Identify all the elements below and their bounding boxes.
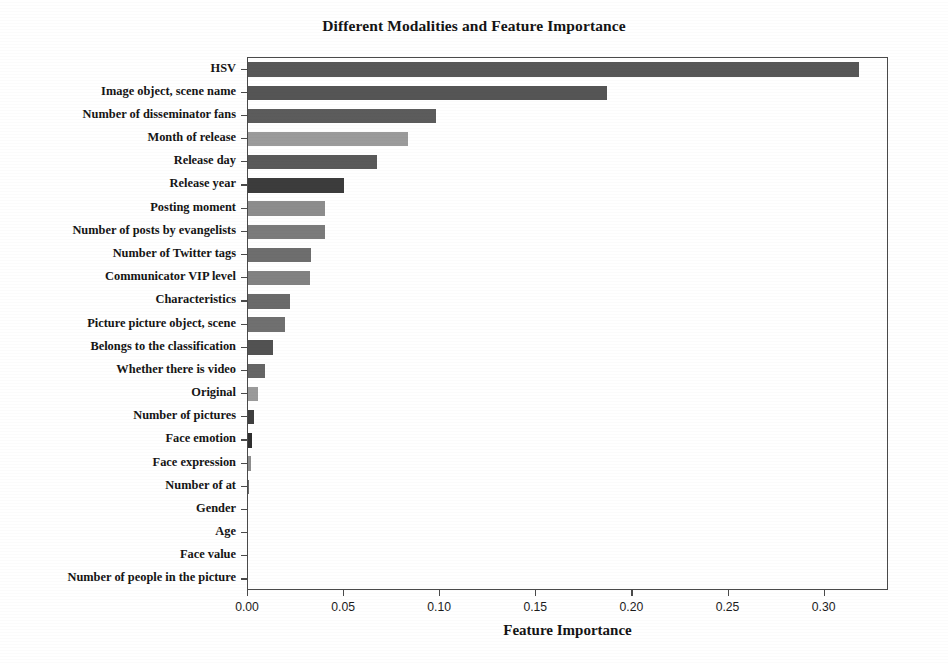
y-axis-tick-label: Release year <box>170 177 236 190</box>
chart-title: Different Modalities and Feature Importa… <box>0 17 948 35</box>
x-axis-tick <box>824 590 825 596</box>
y-axis-tick-label: Characteristics <box>155 293 236 306</box>
bar <box>248 178 344 192</box>
bar <box>248 225 325 239</box>
bar <box>248 109 436 123</box>
y-axis-tick <box>241 184 247 185</box>
x-axis-tick <box>631 590 632 596</box>
bar <box>248 456 251 470</box>
y-axis-tick <box>241 439 247 440</box>
y-axis-tick <box>241 115 247 116</box>
bar-row <box>248 526 889 540</box>
bar-row <box>248 225 889 239</box>
bar-row <box>248 155 889 169</box>
y-axis-tick-label: Posting moment <box>150 201 236 214</box>
y-axis-tick <box>241 532 247 533</box>
y-axis-tick <box>241 300 247 301</box>
plot-area <box>247 57 888 590</box>
bar <box>248 155 377 169</box>
y-axis-tick-label: Number of posts by evangelists <box>72 224 236 237</box>
bar-row <box>248 294 889 308</box>
bar-row <box>248 364 889 378</box>
bar <box>248 132 408 146</box>
bars-layer <box>248 58 887 589</box>
x-axis-tick-label: 0.05 <box>303 600 383 614</box>
bar-row <box>248 86 889 100</box>
x-axis-tick <box>439 590 440 596</box>
y-axis-tick-label: Communicator VIP level <box>105 270 236 283</box>
y-axis-tick-label: Face emotion <box>165 432 236 445</box>
y-axis-tick-label: HSV <box>211 62 236 75</box>
bar-row <box>248 132 889 146</box>
x-axis-tick-label: 0.10 <box>399 600 479 614</box>
x-axis-tick <box>535 590 536 596</box>
bar <box>248 294 290 308</box>
x-axis-title: Feature Importance <box>247 622 888 639</box>
bar-row <box>248 410 889 424</box>
y-axis-tick <box>241 347 247 348</box>
y-axis-tick-label: Whether there is video <box>116 363 236 376</box>
x-axis-tick-label: 0.25 <box>688 600 768 614</box>
y-axis-tick <box>241 231 247 232</box>
y-axis-tick-label: Original <box>191 386 236 399</box>
bar-row <box>248 271 889 285</box>
y-axis-tick <box>241 254 247 255</box>
y-axis-tick-label: Image object, scene name <box>101 85 236 98</box>
bar-row <box>248 62 889 76</box>
bar-row <box>248 456 889 470</box>
y-axis-tick-label: Release day <box>174 154 236 167</box>
bar <box>248 62 859 76</box>
bar-row <box>248 340 889 354</box>
y-axis-tick <box>241 416 247 417</box>
y-axis-tick-label: Face expression <box>153 456 236 469</box>
y-axis-tick <box>241 208 247 209</box>
bar-row <box>248 387 889 401</box>
bar-row <box>248 572 889 586</box>
x-axis-tick-label: 0.00 <box>207 600 287 614</box>
y-axis-tick-label: Belongs to the classification <box>90 340 236 353</box>
y-axis-tick <box>241 138 247 139</box>
y-axis-tick <box>241 69 247 70</box>
y-axis-tick-label: Face value <box>180 548 236 561</box>
x-axis-tick <box>343 590 344 596</box>
y-axis-tick <box>241 324 247 325</box>
bar-row <box>248 178 889 192</box>
y-axis-tick-label: Age <box>215 525 236 538</box>
y-axis-tick-label: Month of release <box>147 131 236 144</box>
bar-row <box>248 433 889 447</box>
bar-row <box>248 317 889 331</box>
bar <box>248 433 252 447</box>
bar-row <box>248 109 889 123</box>
y-axis-tick <box>241 555 247 556</box>
bar-row <box>248 503 889 517</box>
bar <box>248 271 310 285</box>
y-axis-tick <box>241 161 247 162</box>
y-axis-tick <box>241 509 247 510</box>
x-axis-tick <box>728 590 729 596</box>
bar <box>248 201 325 215</box>
chart-figure: Different Modalities and Feature Importa… <box>0 0 948 663</box>
y-axis-tick <box>241 370 247 371</box>
y-axis-tick-label: Number of Twitter tags <box>113 247 236 260</box>
bar-row <box>248 248 889 262</box>
y-axis-tick-label: Number of at <box>165 479 236 492</box>
bar <box>248 410 254 424</box>
bar <box>248 364 265 378</box>
bar <box>248 86 607 100</box>
x-axis-tick <box>247 590 248 596</box>
bar-row <box>248 201 889 215</box>
y-axis-tick <box>241 277 247 278</box>
y-axis-tick-label: Number of disseminator fans <box>83 108 236 121</box>
y-axis-tick <box>241 578 247 579</box>
bar <box>248 340 273 354</box>
y-axis-tick-label: Number of people in the picture <box>67 571 236 584</box>
bar <box>248 480 249 494</box>
y-axis-tick <box>241 92 247 93</box>
x-axis-tick-label: 0.15 <box>495 600 575 614</box>
bar <box>248 248 311 262</box>
bar <box>248 317 285 331</box>
bar-row <box>248 480 889 494</box>
bar-row <box>248 549 889 563</box>
x-axis-tick-label: 0.20 <box>591 600 671 614</box>
y-axis-tick <box>241 463 247 464</box>
